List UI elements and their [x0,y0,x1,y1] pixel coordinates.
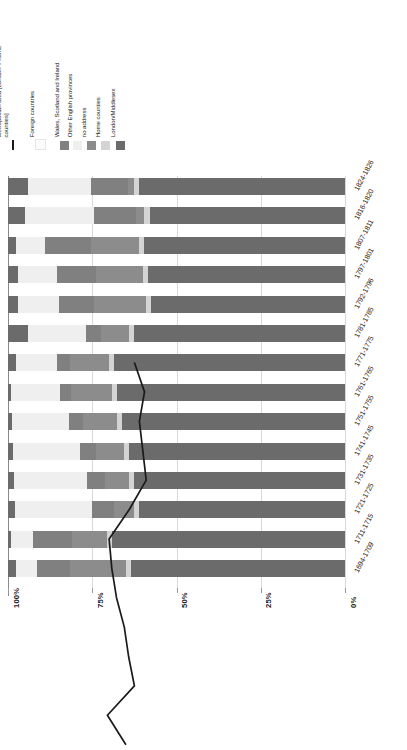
bar-segment [57,266,96,283]
chart-legend: Metropolitan area [London + home countie… [0,0,160,152]
stacked-bar [8,560,345,577]
category-label: 1797-1801 [352,247,376,281]
bar-segment [8,354,16,371]
bar-segment [13,443,80,460]
bar-segment [96,443,125,460]
bar-segment [91,237,140,254]
stacked-bar [8,237,345,254]
axis-tick-label: 25% [264,592,273,608]
stacked-bar [8,266,345,283]
axis-tick-label: 100% [12,588,21,608]
stacked-bar [8,531,345,548]
stacked-bar [8,207,345,224]
bar-segment [134,325,345,342]
bar-segment [144,237,345,254]
stacked-bar [8,354,345,371]
bar-segment [139,501,345,518]
category-label: 1711-1715 [352,512,375,545]
bar-segment [94,296,146,313]
bar-segment [92,501,114,518]
stacked-bar [8,296,345,313]
legend-swatch-box [101,141,110,150]
legend-swatch-box [116,141,125,150]
bar-segment [37,560,71,577]
bar-segment [136,207,144,224]
bar-segment [122,413,345,430]
bar-segment [16,354,56,371]
bar-segment [71,384,111,401]
bar-segment [94,207,136,224]
axis-tick-label: 50% [180,592,189,608]
bar-segment [91,178,128,195]
bar-segment [150,207,345,224]
stacked-bar [8,443,345,460]
stacked-bar [8,501,345,518]
stacked-bar [8,472,345,489]
category-label: 1824-1826 [352,158,376,192]
bar-segment [8,266,18,283]
bar-segment [8,296,18,313]
category-label: 1751-1755 [352,394,376,428]
bar-segment [134,472,345,489]
bar-segment [60,384,72,401]
legend-item-label: no address [80,107,87,137]
bar-segment [18,296,58,313]
legend-swatch-box [73,141,82,150]
bar-segment [18,266,57,283]
legend-item-label: Metropolitan area [London + home countie… [0,45,9,137]
bar-segment [8,501,15,518]
chart-plot: 100%75%50%25%0% 1824-18261816-18201807-1… [0,168,407,642]
bar-segment [16,560,36,577]
bar-segment [14,472,86,489]
bar-segment [70,560,126,577]
bar-segment [28,178,90,195]
bar-segment [11,384,60,401]
category-label: 1694-1709 [352,541,376,575]
category-label: 1761-1765 [352,364,376,398]
category-label: 1721-1725 [352,482,376,516]
legend-item-label: Other English provinces [66,73,73,137]
axis-tick-label: 75% [96,592,105,608]
stacked-bar [8,178,345,195]
bar-segment [105,472,129,489]
category-label: 1792-1796 [352,276,376,310]
category-label: 1816-1820 [352,188,376,222]
bar-segment [114,501,134,518]
axis-tick-mark [8,588,9,593]
category-label: 1781-1785 [352,305,376,339]
bar-segment [101,325,130,342]
legend-item-label: Wales, Scotland and Ireland [53,62,60,137]
bar-segment [72,531,107,548]
bar-segment [16,237,45,254]
category-label: 1771-1775 [352,335,376,369]
bar-segment [80,443,95,460]
bar-segment [96,266,143,283]
legend-item-label: London/Middlesex [109,88,116,137]
bar-segment [8,237,16,254]
bar-segment [25,207,94,224]
bar-segment [139,178,345,195]
bar-segment [69,413,82,430]
stacked-bar [8,325,345,342]
category-label: 1731-1735 [352,452,376,486]
bar-segment [11,531,33,548]
gridline [345,176,346,592]
bar-segment [151,296,345,313]
legend-swatch-box [60,141,69,150]
bar-segment [8,560,16,577]
legend-item-label: Foreign countries [28,91,35,137]
bar-segment [8,325,28,342]
stacked-bar [8,413,345,430]
bar-segment [83,413,117,430]
legend-item-label: Home counties [94,97,101,137]
axis-tick-mark [177,588,178,593]
bar-segment [87,472,106,489]
stacked-bar [8,384,345,401]
legend-swatch-line [12,140,14,150]
bar-segment [8,207,25,224]
bar-segment [57,354,70,371]
bar-segment [117,384,345,401]
bar-segment [129,443,345,460]
axis-tick-mark [261,588,262,593]
bar-segment [15,501,93,518]
